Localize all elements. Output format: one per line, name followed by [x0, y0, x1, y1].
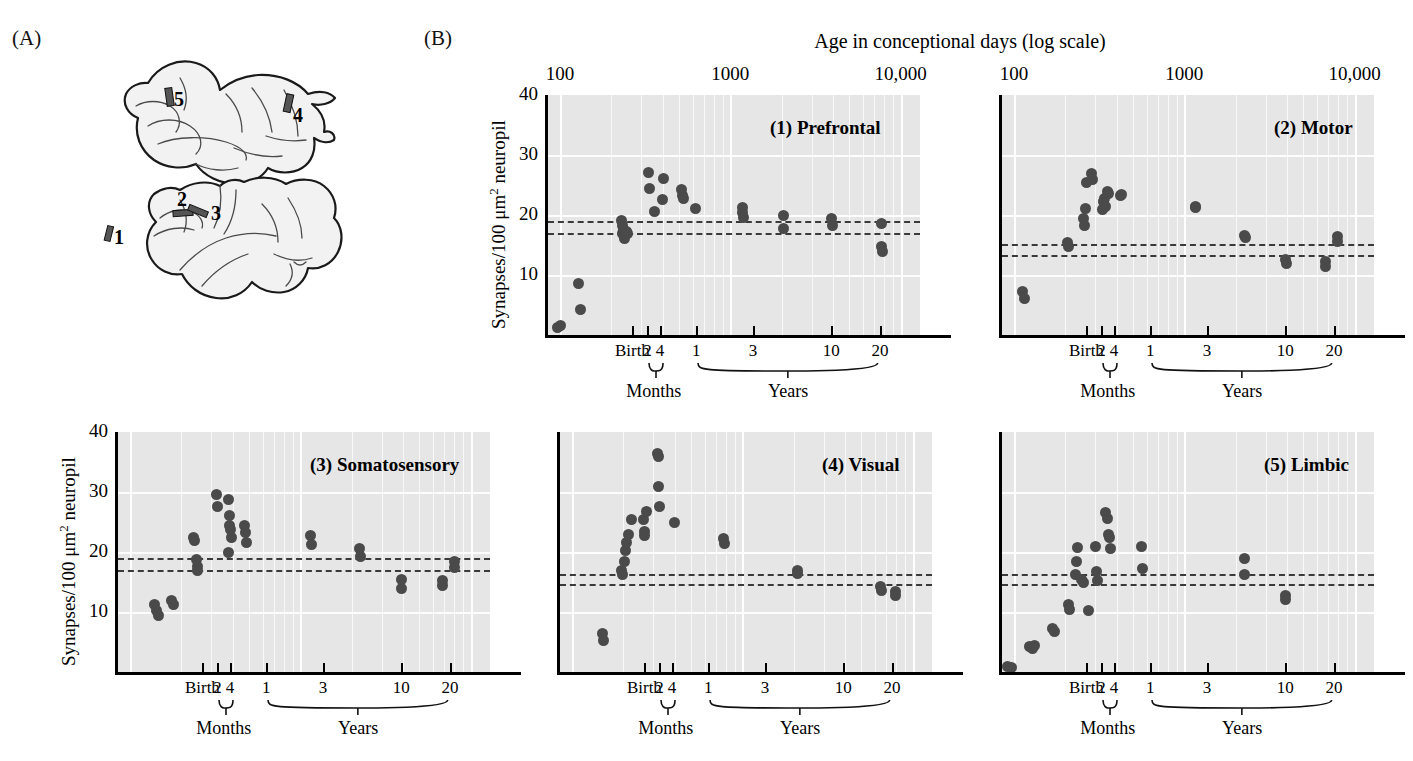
data-point — [223, 494, 234, 505]
x-tick-label: 10 — [808, 678, 878, 698]
y-tick-label: 30 — [504, 143, 538, 165]
gridline-vertical — [845, 432, 846, 672]
gridline-vertical — [572, 432, 574, 672]
panel-b-letter: (B) — [424, 26, 452, 51]
data-point — [192, 561, 203, 572]
data-point — [618, 224, 629, 235]
data-point — [621, 226, 632, 237]
data-point — [1104, 532, 1115, 543]
years-brace-3 — [266, 700, 450, 716]
gridline-vertical — [874, 95, 875, 335]
data-point — [616, 565, 627, 576]
x-tick-label: 20 — [845, 341, 915, 361]
data-point — [737, 202, 748, 213]
x-axis-tick — [230, 663, 232, 672]
data-point — [876, 585, 887, 596]
gridline-vertical — [444, 432, 445, 672]
data-point — [876, 241, 887, 252]
data-point — [226, 532, 237, 543]
brain-upper-outline — [125, 62, 335, 184]
data-point — [1099, 193, 1110, 204]
x-tick-label: 4 — [1079, 341, 1149, 361]
brain-outline-svg: 5 4 2 3 1 — [30, 18, 390, 348]
data-point — [1091, 566, 1102, 577]
gridline-vertical — [463, 432, 464, 672]
gridline-vertical — [382, 432, 383, 672]
gridline-vertical — [1014, 432, 1016, 672]
data-point — [617, 220, 628, 231]
x-tick-label: 10 — [1250, 341, 1320, 361]
top-tick-label: 100 — [974, 63, 1054, 85]
data-point — [1239, 553, 1250, 564]
data-point — [827, 220, 838, 231]
gridline-vertical — [130, 432, 132, 672]
data-point — [890, 586, 901, 597]
data-point — [620, 545, 631, 556]
data-point — [598, 635, 609, 646]
x-axis-tick — [1334, 663, 1336, 672]
data-point — [826, 213, 837, 224]
x-tick-label: 2 — [182, 678, 252, 698]
gridline-horizontal — [560, 612, 932, 614]
y-tick-label: 10 — [504, 263, 538, 285]
data-point — [718, 533, 729, 544]
data-point — [305, 530, 316, 541]
data-point — [449, 556, 460, 567]
gridline-vertical — [1317, 95, 1318, 335]
data-point — [191, 554, 202, 565]
x-tick-label: 10 — [796, 341, 866, 361]
gridline-vertical — [675, 432, 676, 672]
y-axis-line-1 — [545, 95, 548, 338]
gridline-vertical — [723, 95, 724, 335]
months-group-label: Months — [154, 718, 294, 739]
data-point — [1078, 577, 1089, 588]
gridline-vertical — [812, 95, 813, 335]
gridline-vertical — [1065, 95, 1066, 335]
x-tick-label: 10 — [1250, 678, 1320, 698]
data-point — [1002, 661, 1013, 672]
reference-line-2 — [560, 584, 932, 586]
gridline-vertical — [560, 95, 562, 335]
years-brace-4 — [708, 700, 892, 716]
data-point — [1063, 599, 1074, 610]
x-tick-label: 3 — [1172, 678, 1242, 698]
x-tick-label: 1 — [1115, 341, 1185, 361]
gridline-vertical — [716, 432, 717, 672]
gridline-vertical — [1147, 432, 1148, 672]
data-point — [1320, 261, 1331, 272]
gridline-vertical — [1355, 95, 1357, 335]
x-tick-label: 4 — [195, 678, 265, 698]
years-group-label: Years — [288, 718, 428, 739]
data-point — [619, 230, 630, 241]
data-point — [652, 448, 663, 459]
years-group-label: Years — [1172, 718, 1312, 739]
reference-line-2 — [1002, 584, 1374, 586]
gridline-vertical — [1317, 432, 1318, 672]
x-tick-label: 4 — [625, 341, 695, 361]
reference-line-2 — [548, 233, 920, 235]
gridline-vertical — [691, 432, 692, 672]
x-axis-line-5 — [999, 672, 1405, 675]
reference-line-1 — [118, 558, 490, 560]
x-axis-tick — [1101, 326, 1103, 335]
gridline-vertical — [1266, 432, 1267, 672]
x-tick-label: 4 — [637, 678, 707, 698]
data-point — [1071, 556, 1082, 567]
panel-title-4: (4) Visual — [822, 454, 900, 476]
gridline-vertical — [913, 432, 915, 672]
data-point — [1116, 189, 1127, 200]
x-tick-label: 2 — [612, 341, 682, 361]
data-point — [616, 215, 627, 226]
gridline-vertical — [1303, 95, 1304, 335]
x-axis-tick — [632, 326, 634, 335]
gridline-horizontal — [548, 155, 920, 157]
x-tick-label: 10 — [366, 678, 436, 698]
reference-line-2 — [1002, 255, 1374, 257]
gridline-vertical — [663, 95, 664, 335]
data-point — [1100, 201, 1111, 212]
data-point — [555, 320, 566, 331]
gridline-vertical — [884, 95, 885, 335]
data-point — [1280, 254, 1291, 265]
years-group-label: Years — [730, 718, 870, 739]
data-point — [1115, 190, 1126, 201]
